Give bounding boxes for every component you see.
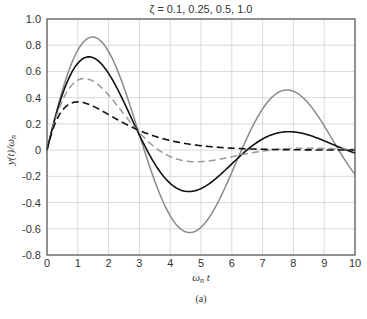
grid [47,19,355,255]
x-tick-label: 3 [136,257,142,269]
y-tick-label: 1.0 [26,13,41,25]
figure-caption: (a) [195,293,206,305]
x-tick-label: 10 [349,257,361,269]
y-tick-label: -0.8 [22,249,41,261]
x-axis-label: ωn t [192,271,211,285]
y-tick-label: -0.6 [22,223,41,235]
y-tick-label: 0.2 [26,118,41,130]
x-tick-label: 7 [260,257,266,269]
y-tick-label: -0.2 [22,170,41,182]
x-tick-label: 9 [321,257,327,269]
y-tick-label: 0.6 [26,65,41,77]
x-tick-label: 6 [229,257,235,269]
y-tick-labels: 1.00.80.60.40.20-0.2-0.4-0.6-0.8 [22,13,41,261]
x-tick-label: 2 [106,257,112,269]
chart-title: ζ = 0.1, 0.25, 0.5, 1.0 [149,3,252,15]
y-tick-label: 0 [35,144,41,156]
x-tick-label: 4 [167,257,173,269]
y-tick-label: 0.8 [26,39,41,51]
y-tick-label: -0.4 [22,197,41,209]
y-tick-label: 0.4 [26,92,41,104]
x-tick-label: 8 [290,257,296,269]
y-axis-label: y(t)/ωn [4,135,18,166]
x-tick-label: 5 [198,257,204,269]
x-tick-labels: 012345678910 [44,257,361,269]
x-tick-label: 1 [75,257,81,269]
impulse-response-chart: ζ = 0.1, 0.25, 0.5, 1.0 012345678910 1.0… [0,0,367,319]
x-tick-label: 0 [44,257,50,269]
